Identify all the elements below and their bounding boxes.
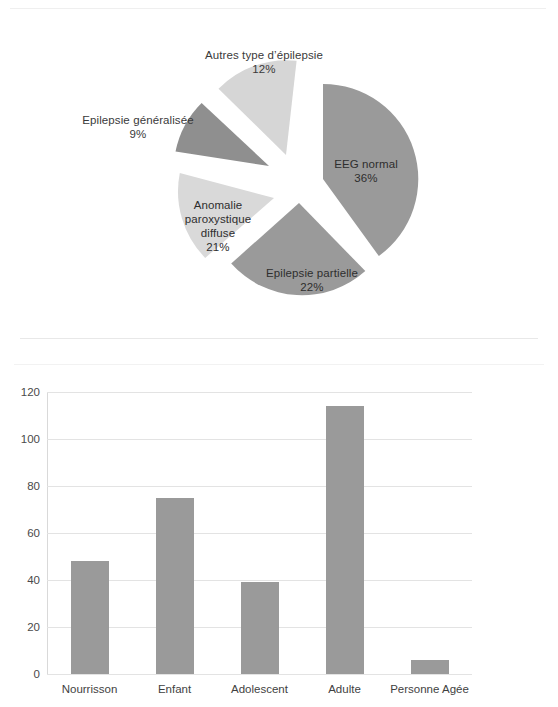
bar-panel-top-divider [14,364,544,365]
pie-label-anomalie-line1: Anomalie [170,198,266,212]
bars-group: NourrissonEnfantAdolescentAdultePersonne… [47,392,472,674]
pie-label-generalisee-text: Epilepsie généralisée [82,114,193,126]
x-axis-tick-label: Personne Agée [390,683,469,695]
bar-slot: Personne Agée [387,392,472,674]
pie-label-anomalie-paroxystique-diffuse: Anomalie paroxystique diffuse 21% [170,198,266,254]
bar-slot: Adolescent [217,392,302,674]
pie-label-anomalie-line2: paroxystique [170,212,266,226]
bar[interactable] [411,660,449,674]
bar-chart-plot-area: 020406080100120 NourrissonEnfantAdolesce… [47,392,472,674]
y-axis-tick-label: 80 [27,480,40,492]
bar[interactable] [326,406,364,674]
bar[interactable] [71,561,109,674]
pie-label-partielle-pct: 22% [253,280,371,294]
x-axis-tick-label: Nourrisson [62,683,118,695]
pie-label-autres-type-epilepsie: Autres type d’épilepsie 12% [184,48,344,76]
x-axis-tick-label: Adolescent [231,683,288,695]
bar-chart-panel: 020406080100120 NourrissonEnfantAdolesce… [0,358,558,707]
bar[interactable] [241,582,279,674]
x-axis-tick-label: Enfant [158,683,191,695]
pie-label-autres-pct: 12% [184,62,344,76]
pie-label-partielle-text: Epilepsie partielle [266,267,358,279]
bar-slot: Adulte [302,392,387,674]
bar[interactable] [156,498,194,674]
y-axis-tick-label: 120 [21,386,40,398]
pie-label-generalisee-pct: 9% [82,127,194,141]
pie-label-autres-text: Autres type d’épilepsie [205,49,323,61]
pie-label-eeg-normal: EEG normal 36% [318,157,414,185]
pie-label-eeg-pct: 36% [318,171,414,185]
pie-label-anomalie-pct: 21% [170,240,266,254]
pie-chart-panel: Autres type d’épilepsie 12% Epilepsie gé… [0,0,558,348]
y-axis-tick-label: 0 [34,668,40,680]
gridline: 0 [47,674,472,675]
pie-label-epilepsie-partielle: Epilepsie partielle 22% [253,266,371,294]
y-axis-tick-label: 100 [21,433,40,445]
pie-label-epilepsie-generalisee: Epilepsie généralisée 9% [82,113,194,141]
pie-label-anomalie-line3: diffuse [170,226,266,240]
bar-slot: Nourrisson [47,392,132,674]
pie-label-eeg-text: EEG normal [334,158,398,170]
y-axis-tick-label: 40 [27,574,40,586]
y-axis-tick-label: 20 [27,621,40,633]
bar-slot: Enfant [132,392,217,674]
y-axis-tick-label: 60 [27,527,40,539]
x-axis-tick-label: Adulte [328,683,361,695]
